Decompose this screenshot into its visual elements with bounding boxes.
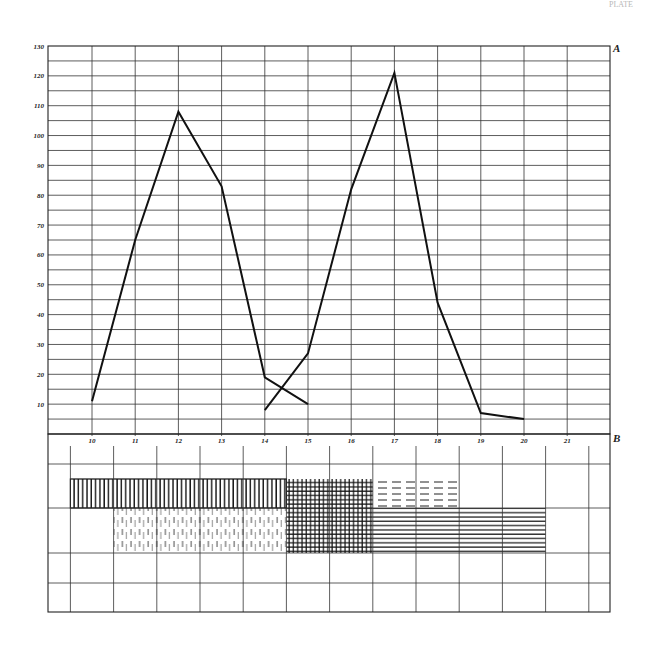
x-tick-label: 13 <box>218 437 226 445</box>
y-tick-label: 70 <box>37 222 45 230</box>
x-tick-label: 14 <box>261 437 269 445</box>
y-tick-label: 110 <box>34 102 45 110</box>
y-tick-label: 50 <box>37 281 45 289</box>
y-tick-label: 120 <box>34 72 45 80</box>
y-tick-label: 60 <box>37 251 45 259</box>
x-tick-label: 10 <box>89 437 97 445</box>
y-tick-label: 90 <box>37 162 45 170</box>
x-tick-label: 12 <box>175 437 183 445</box>
y-tick-label: 10 <box>37 401 45 409</box>
panel-b: 101112131415161718192021B <box>48 432 620 612</box>
y-tick-label: 40 <box>36 311 45 319</box>
x-tick-label: 18 <box>434 437 442 445</box>
x-tick-label: 17 <box>391 437 399 445</box>
y-tick-label: 100 <box>34 132 45 140</box>
x-tick-label: 19 <box>477 437 485 445</box>
y-tick-label: 130 <box>34 43 45 51</box>
panel-label-a: A <box>612 42 620 54</box>
y-tick-label: 20 <box>36 371 45 379</box>
x-tick-label: 15 <box>305 437 313 445</box>
panel-label-b: B <box>612 432 620 444</box>
x-tick-label: 16 <box>348 437 356 445</box>
chart-root: 102030405060708090100110120130A 10111213… <box>0 0 645 655</box>
y-tick-label: 80 <box>37 192 45 200</box>
vertical-hatch-band <box>70 479 286 508</box>
y-tick-label: 30 <box>36 341 45 349</box>
panel-a: 102030405060708090100110120130A <box>34 42 621 434</box>
x-tick-label: 20 <box>520 437 529 445</box>
x-tick-label: 21 <box>563 437 571 445</box>
series-line-curve-1 <box>92 112 308 405</box>
x-tick-label: 11 <box>132 437 139 445</box>
